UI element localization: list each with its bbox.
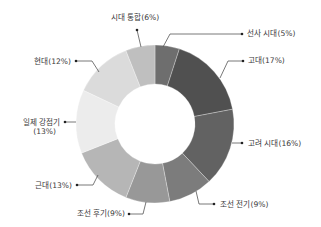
leader-dot <box>213 203 216 206</box>
leader-line <box>76 61 99 72</box>
donut-slice <box>167 49 232 117</box>
slice-label: 조선 전기(9%) <box>220 199 268 209</box>
slice-label: 근대(13%) <box>35 181 72 190</box>
donut-chart: 선사 시대(5%)고대(17%)고려 시대(16%)조선 전기(9%)조선 후기… <box>0 0 321 227</box>
leader-line <box>129 202 146 214</box>
leader-dot <box>242 60 245 63</box>
leader-dot <box>136 29 139 32</box>
leader-line <box>220 61 243 78</box>
leader-dot <box>241 142 244 145</box>
leader-dot <box>76 184 79 187</box>
slice-label: 현대(12%) <box>34 57 71 66</box>
leader-line <box>163 34 242 47</box>
slice-label: 조선 후기(9%) <box>77 209 125 218</box>
leader-dot <box>75 60 78 63</box>
slice-label: 일제 강점기(13%) <box>23 117 60 136</box>
donut-slices <box>76 45 234 203</box>
slice-label: 시대 통합(6%) <box>111 13 159 22</box>
leader-line <box>196 191 214 204</box>
leader-line <box>77 175 98 185</box>
slice-label: 고려 시대(16%) <box>248 138 301 148</box>
leader-dot <box>128 213 131 216</box>
leader-line <box>137 30 141 47</box>
slice-label: 선사 시대(5%) <box>247 29 295 38</box>
leader-dot <box>64 121 67 124</box>
leader-dot <box>241 33 244 36</box>
slice-label: 고대(17%) <box>248 56 285 65</box>
